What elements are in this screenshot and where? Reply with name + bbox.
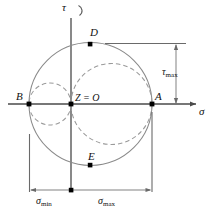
tau-axis-arrowhead: [79, 6, 83, 16]
point-marker-E: [88, 163, 93, 168]
point-label-D: D: [90, 27, 98, 38]
sigma-max-arrowhead-right: [146, 188, 152, 192]
sigma-axis-arrowhead: [190, 102, 196, 107]
tau-max-arrowhead-top: [174, 44, 178, 50]
mohr-circle-figure: τ σ D E B A Z = O τmax σmin σmax: [0, 0, 215, 214]
point-marker-origin-bottom: [69, 188, 74, 193]
point-marker-O: [69, 102, 74, 107]
point-label-B: B: [16, 91, 23, 102]
sigma-min-label: σmin: [36, 196, 52, 208]
origin-label: Z = O: [75, 93, 100, 103]
point-markers-group: [27, 42, 155, 193]
mohr-circle-canvas: [0, 0, 215, 214]
sigma-min-arrowhead-left: [30, 188, 36, 192]
tau-axis-label: τ: [62, 2, 66, 13]
tau-max-label: τmax: [162, 67, 178, 79]
tau-max-subscript: max: [166, 71, 178, 79]
point-marker-A: [150, 102, 155, 107]
sigma-min-subscript: min: [41, 200, 52, 208]
tau-max-arrowhead-bottom: [174, 98, 178, 104]
sigma-axis-label: σ: [199, 106, 204, 117]
point-label-E: E: [88, 151, 95, 162]
axes-group: [8, 6, 196, 191]
sigma-max-label: σmax: [98, 196, 115, 208]
sigma-max-subscript: max: [103, 200, 115, 208]
point-marker-D: [88, 42, 93, 47]
point-label-A: A: [155, 91, 162, 102]
point-marker-B: [27, 102, 32, 107]
